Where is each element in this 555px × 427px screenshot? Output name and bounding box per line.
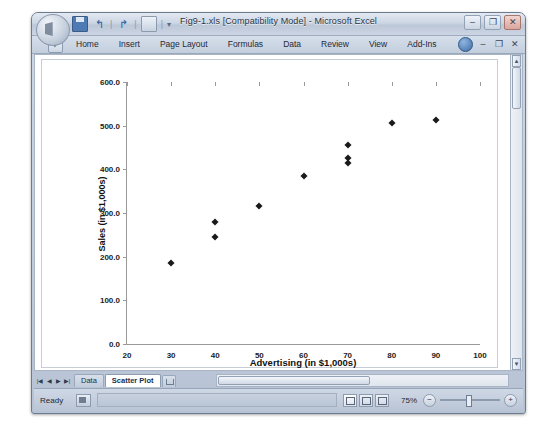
- horizontal-scroll-thumb[interactable]: [218, 376, 370, 385]
- tab-data[interactable]: Data: [273, 36, 311, 53]
- sheet-nav-next-icon[interactable]: ▶: [54, 377, 62, 384]
- window-controls: – ❐ ✕: [464, 15, 521, 30]
- chart-x-tick-mark: [304, 82, 305, 86]
- chart-data-point[interactable]: [300, 172, 307, 179]
- view-buttons: [343, 394, 389, 407]
- zoom-slider-thumb[interactable]: [466, 395, 472, 407]
- chart-x-tick-mark: [259, 82, 260, 86]
- chart-x-tick-mark: [127, 82, 128, 86]
- chart-data-point[interactable]: [344, 142, 351, 149]
- chart-y-tick-mark: [123, 257, 127, 258]
- office-logo-icon: [45, 22, 59, 36]
- normal-view-icon[interactable]: [343, 394, 357, 407]
- sheet-tab-scatter-plot[interactable]: Scatter Plot: [105, 374, 161, 387]
- chart-data-point[interactable]: [212, 218, 219, 225]
- window-title: Fig9-1.xls [Compatibility Mode] - Micros…: [32, 16, 525, 26]
- workbook-minimize-button[interactable]: –: [477, 38, 489, 51]
- workbook-close-button[interactable]: ✕: [509, 38, 521, 51]
- page-break-view-icon[interactable]: [375, 394, 389, 407]
- page-layout-view-icon[interactable]: [359, 394, 373, 407]
- excel-application-window: ↰ | ↱ | | ▾ Fig9-1.xls [Compatibility Mo…: [31, 12, 526, 414]
- ribbon-right-controls: – ❐ ✕: [458, 37, 521, 52]
- sheet-tab-data[interactable]: Data: [74, 374, 104, 387]
- tab-page-layout[interactable]: Page Layout: [150, 36, 218, 53]
- status-field: [97, 393, 337, 407]
- chart-data-point[interactable]: [388, 119, 395, 126]
- office-button[interactable]: [36, 14, 70, 46]
- close-button[interactable]: ✕: [504, 15, 521, 30]
- minimize-button[interactable]: –: [464, 15, 481, 30]
- sheet-nav-buttons: |◀ ◀ ▶ ▶|: [36, 377, 71, 384]
- chart-data-point[interactable]: [212, 233, 219, 240]
- chart-y-tick-mark: [123, 126, 127, 127]
- tab-insert[interactable]: Insert: [109, 36, 150, 53]
- zoom-slider[interactable]: − +: [423, 394, 517, 407]
- chart-plot-area: 0.0100.0200.0300.0400.0500.0600.02030405…: [126, 82, 480, 345]
- worksheet-area: Sales (in $1,000s) 0.0100.0200.0300.0400…: [34, 54, 523, 371]
- tab-home[interactable]: Home: [66, 36, 109, 53]
- sheet-nav-prev-icon[interactable]: ◀: [45, 377, 53, 384]
- vertical-scroll-thumb[interactable]: [512, 67, 521, 109]
- chart-x-tick-mark: [215, 82, 216, 86]
- record-macro-icon[interactable]: [76, 394, 91, 407]
- tab-review[interactable]: Review: [311, 36, 359, 53]
- chart-y-tick-mark: [123, 344, 127, 345]
- chart-x-tick-mark: [171, 82, 172, 86]
- tab-formulas[interactable]: Formulas: [218, 36, 273, 53]
- chart-x-tick-mark: [392, 82, 393, 86]
- status-text: Ready: [40, 396, 74, 405]
- zoom-in-button[interactable]: +: [504, 394, 517, 407]
- chart-data-point[interactable]: [168, 260, 175, 267]
- vertical-scrollbar[interactable]: ▲ ▼: [510, 54, 523, 371]
- chart-y-tick-mark: [123, 213, 127, 214]
- title-bar: ↰ | ↱ | | ▾ Fig9-1.xls [Compatibility Mo…: [32, 13, 525, 36]
- chart-data-point[interactable]: [256, 203, 263, 210]
- ribbon-tabs: Home Insert Page Layout Formulas Data Re…: [66, 36, 447, 53]
- sheet-nav-last-icon[interactable]: ▶|: [63, 377, 71, 384]
- status-bar: Ready 75% − +: [34, 388, 523, 411]
- help-icon[interactable]: [458, 37, 473, 52]
- sheet-nav-first-icon[interactable]: |◀: [36, 377, 44, 384]
- chart-x-tick-mark: [480, 82, 481, 86]
- tab-view[interactable]: View: [359, 36, 397, 53]
- zoom-slider-track[interactable]: [440, 399, 500, 401]
- sheet-tab-bar: |◀ ◀ ▶ ▶| Data Scatter Plot: [34, 374, 214, 387]
- chart-object[interactable]: Sales (in $1,000s) 0.0100.0200.0300.0400…: [41, 59, 498, 368]
- chart-data-point[interactable]: [344, 159, 351, 166]
- chart-x-tick-mark: [348, 82, 349, 86]
- tab-add-ins[interactable]: Add-Ins: [397, 36, 446, 53]
- zoom-out-button[interactable]: −: [423, 394, 436, 407]
- screenshot-root: ↰ | ↱ | | ▾ Fig9-1.xls [Compatibility Mo…: [0, 0, 555, 427]
- chart-y-tick-mark: [123, 300, 127, 301]
- chart-y-tick-mark: [123, 169, 127, 170]
- scroll-up-arrow-icon[interactable]: ▲: [512, 55, 521, 67]
- insert-worksheet-icon[interactable]: [162, 375, 176, 387]
- restore-button[interactable]: ❐: [484, 15, 501, 30]
- chart-x-tick-mark: [436, 82, 437, 86]
- chart-x-axis-label: Advertising (in $1,000s): [126, 357, 480, 368]
- chart-data-point[interactable]: [432, 117, 439, 124]
- ribbon-tab-strip: Home Insert Page Layout Formulas Data Re…: [32, 36, 525, 54]
- horizontal-scrollbar[interactable]: [216, 374, 509, 387]
- workbook-restore-button[interactable]: ❐: [493, 38, 505, 51]
- scroll-down-arrow-icon[interactable]: ▼: [512, 358, 521, 370]
- zoom-level[interactable]: 75%: [395, 396, 417, 405]
